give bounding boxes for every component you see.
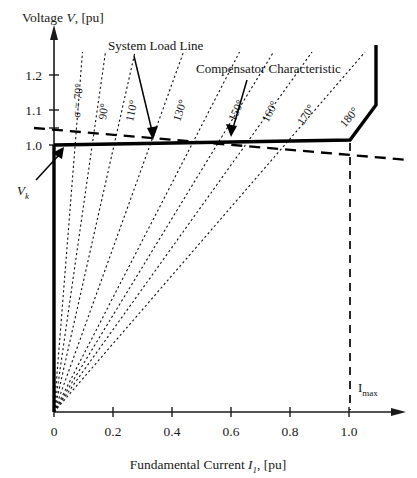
x-axis-title-lead: Fundamental Current <box>130 457 248 472</box>
x-axis-title-trail: , [pu] <box>257 457 286 472</box>
y-tick-label-1.2: 1.2 <box>25 68 42 83</box>
axes <box>50 25 406 416</box>
knee-voltage-subscript: k <box>25 191 30 201</box>
ray-label-90: 90° <box>96 102 110 120</box>
ray-label-70: σ = 70° <box>70 82 85 118</box>
x-tick-label-1.0: 1.0 <box>341 424 358 439</box>
annotation-knee-voltage: Vk <box>17 147 64 201</box>
x-tick-label-0: 0 <box>51 424 58 439</box>
ray-label-180: 180° <box>337 105 360 130</box>
x-tick-label-0.8: 0.8 <box>282 424 299 439</box>
y-axis-title: Voltage V, [pu] <box>22 10 104 25</box>
system-load-line-label: System Load Line <box>108 38 204 53</box>
ray-labels: σ = 70° 90° 110° 130° 150° 160° 170° 180… <box>70 82 361 129</box>
chart-svg: σ = 70° 90° 110° 130° 150° 160° 170° 180… <box>0 0 417 478</box>
x-tick-label-0.4: 0.4 <box>164 424 181 439</box>
compensator-characteristic-arrowhead <box>226 124 237 137</box>
x-tick-label-0.2: 0.2 <box>105 424 122 439</box>
y-axis-arrowhead <box>50 25 58 40</box>
x-tick-label-0.6: 0.6 <box>223 424 240 439</box>
x-axis-arrowhead <box>391 408 406 416</box>
x-axis-title: Fundamental Current I1, [pu] <box>130 457 287 475</box>
y-tick-label-1.1: 1.1 <box>25 103 42 118</box>
y-axis-title-trail: , [pu] <box>75 10 104 25</box>
y-axis-title-lead: Voltage <box>22 10 66 25</box>
y-tick-label-1.0: 1.0 <box>25 138 42 153</box>
x-tick-labels: 0 0.2 0.4 0.6 0.8 1.0 <box>51 424 358 439</box>
annotation-system-load-line: System Load Line <box>108 38 204 140</box>
ray-label-110: 110° <box>123 99 139 123</box>
ray-110 <box>54 52 135 412</box>
knee-voltage-label: Vk <box>17 183 30 201</box>
compensator-characteristic-label: Compensator Characteristic <box>196 61 341 76</box>
ray-label-160: 160° <box>259 99 280 124</box>
y-tick-labels: 1.2 1.1 1.0 <box>25 68 42 153</box>
max-current-label: Imax <box>358 380 378 398</box>
ray-label-130: 130° <box>170 98 188 123</box>
figure-container: σ = 70° 90° 110° 130° 150° 160° 170° 180… <box>0 0 417 478</box>
system-load-line-leader <box>134 56 152 131</box>
max-current-subscript: max <box>362 388 378 398</box>
ray-label-170: 170° <box>295 102 317 127</box>
